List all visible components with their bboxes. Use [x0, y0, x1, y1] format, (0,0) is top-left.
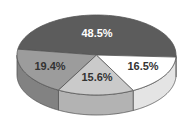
pie-chart: 48.5% 16.5% 15.6% 19.4% [0, 0, 185, 129]
slice-label-48-5: 48.5% [81, 27, 112, 39]
slice-label-19-4: 19.4% [34, 60, 65, 72]
slice-label-16-5: 16.5% [127, 60, 158, 72]
slice-label-15-6: 15.6% [81, 71, 112, 83]
